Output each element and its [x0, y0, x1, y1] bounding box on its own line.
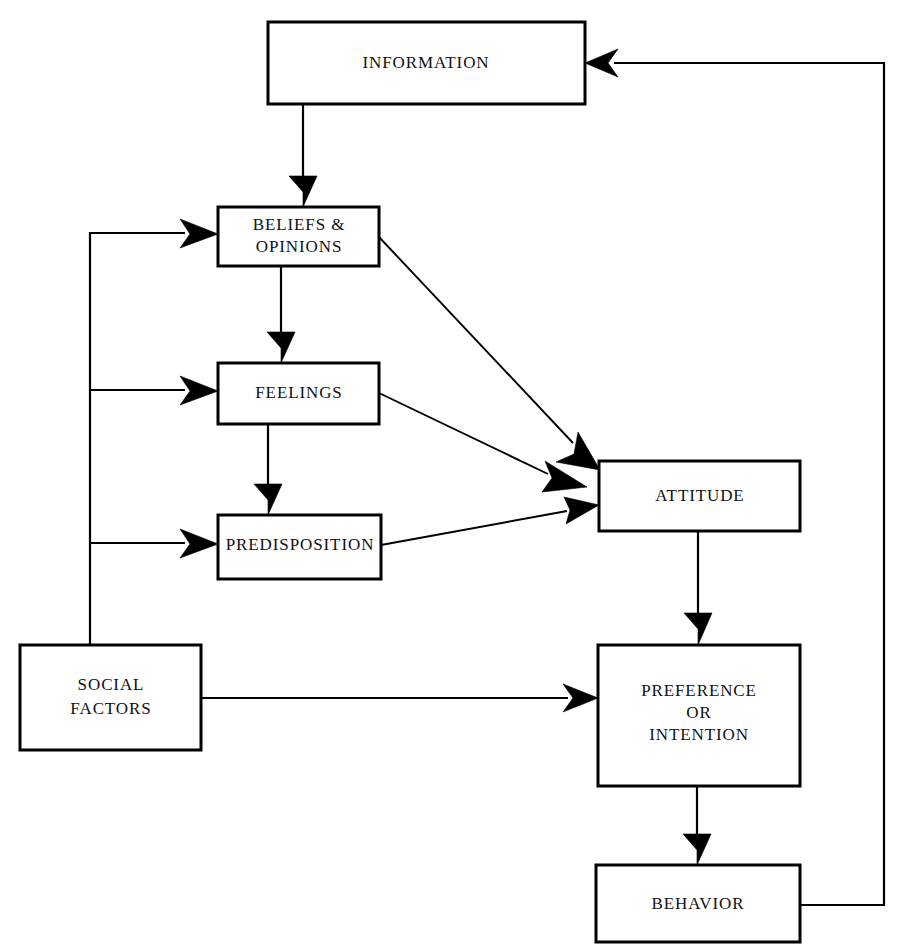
edge-attitude-to-preference — [684, 531, 712, 645]
flowchart-svg: INFORMATION BELIEFS & OPINIONS FEELINGS … — [0, 0, 898, 952]
edge-social-factors-to-beliefs — [90, 219, 218, 698]
node-feelings[interactable]: FEELINGS — [218, 363, 379, 424]
edge-social-factors-to-predisposition — [90, 529, 218, 558]
edge-beliefs-to-attitude — [379, 237, 600, 470]
edge-social-factors-to-feelings — [90, 376, 218, 405]
node-information-label: INFORMATION — [362, 53, 489, 72]
node-social-factors[interactable]: SOCIAL FACTORS — [20, 645, 201, 750]
edge-feelings-to-attitude — [379, 393, 587, 492]
node-information[interactable]: INFORMATION — [268, 22, 585, 104]
edge-predisposition-to-attitude — [381, 497, 599, 545]
edge-information-to-beliefs — [289, 104, 317, 207]
node-feelings-label: FEELINGS — [255, 383, 342, 402]
edge-preference-to-behavior — [683, 786, 711, 865]
node-preference-label-line3: INTENTION — [649, 725, 749, 744]
node-predisposition[interactable]: PREDISPOSITION — [218, 515, 381, 579]
node-preference-label-line1: PREFERENCE — [641, 681, 757, 700]
node-social-factors-label-line2: FACTORS — [70, 699, 151, 718]
node-attitude-label: ATTITUDE — [655, 486, 744, 505]
node-preference-or-intention[interactable]: PREFERENCE OR INTENTION — [598, 645, 800, 786]
edge-social-factors-to-preference — [201, 684, 598, 712]
node-behavior[interactable]: BEHAVIOR — [596, 865, 800, 942]
node-beliefs-opinions-label-line2: OPINIONS — [256, 237, 343, 256]
node-beliefs-opinions[interactable]: BELIEFS & OPINIONS — [218, 207, 379, 266]
node-social-factors-label-line1: SOCIAL — [78, 675, 145, 694]
node-beliefs-opinions-label-line1: BELIEFS & — [253, 215, 346, 234]
node-predisposition-label: PREDISPOSITION — [226, 535, 375, 554]
node-preference-label-line2: OR — [686, 703, 711, 722]
edge-feelings-to-predisposition — [254, 424, 282, 515]
diagram-canvas: INFORMATION BELIEFS & OPINIONS FEELINGS … — [0, 0, 898, 952]
node-attitude[interactable]: ATTITUDE — [599, 461, 800, 531]
edge-beliefs-to-feelings — [267, 266, 295, 363]
node-behavior-label: BEHAVIOR — [652, 894, 745, 913]
